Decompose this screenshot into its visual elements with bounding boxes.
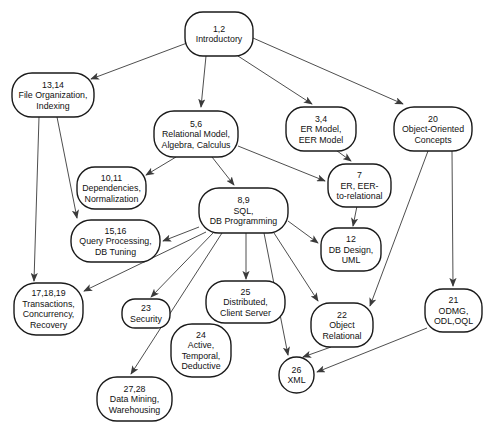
node-23: 23Security xyxy=(122,299,170,328)
edge-8-9-to-12 xyxy=(288,221,318,243)
figure-canvas: 1,2Introductory13,14File Organization,In… xyxy=(0,0,491,429)
node-17-18-19-label-line: 17,18,19 xyxy=(31,288,65,298)
node-13-14-label-line: File Organization, xyxy=(19,90,88,100)
node-12-label-line: UML xyxy=(342,255,361,265)
node-12-label-line: DB Design, xyxy=(329,245,374,255)
edge-1-2-to-3-4 xyxy=(238,56,312,104)
node-23-label-line: 23 xyxy=(141,303,151,313)
node-10-11-label-line: Normalization xyxy=(85,194,139,204)
node-26: 26XML xyxy=(279,357,314,393)
node-10-11-label-line: Dependencies, xyxy=(82,183,141,193)
node-8-9: 8,9SQL,DB Programming xyxy=(199,188,288,233)
node-17-18-19: 17,18,19Transactions,Concurrency,Recover… xyxy=(14,283,83,335)
edge-1-2-to-13-14 xyxy=(91,43,187,79)
node-25-label-line: Client Server xyxy=(220,308,271,318)
node-17-18-19-label-line: Recovery xyxy=(30,320,68,330)
node-12: 12DB Design,UML xyxy=(321,228,381,271)
node-22: 22ObjectRelational xyxy=(311,303,373,347)
node-1-2: 1,2Introductory xyxy=(185,12,253,56)
node-27-28-label-line: Data Mining, xyxy=(110,394,159,404)
node-25-label-line: Distributed, xyxy=(223,297,268,307)
node-23-label-line: Security xyxy=(130,314,162,324)
node-20-label-line: Concepts xyxy=(414,135,452,145)
dependency-diagram: 1,2Introductory13,14File Organization,In… xyxy=(0,0,491,429)
node-13-14-label-line: 13,14 xyxy=(42,80,64,90)
node-21-label-line: ODMG, xyxy=(439,306,469,316)
node-27-28: 27,28Data Mining,Warehousing xyxy=(97,377,172,421)
node-3-4: 3,4ER Model,EER Model xyxy=(286,107,356,151)
node-3-4-label-line: 3,4 xyxy=(315,114,327,124)
node-27-28-label-line: 27,28 xyxy=(123,384,145,394)
node-5-6-label-line: 5,6 xyxy=(190,119,202,129)
node-8-9-label-line: 8,9 xyxy=(237,195,249,205)
node-24-label-line: 24 xyxy=(196,330,206,340)
node-26-label-line: XML xyxy=(287,375,305,385)
node-1-2-label-line: 1,2 xyxy=(213,24,225,34)
node-24-label-line: Temporal, xyxy=(182,351,221,361)
node-20: 20Object-OrientedConcepts xyxy=(394,107,472,151)
edge-1-2-to-20 xyxy=(253,38,403,104)
node-22-label-line: 22 xyxy=(337,310,347,320)
node-24-label-line: Active, xyxy=(188,340,214,350)
node-21-label-line: 21 xyxy=(449,295,459,305)
node-17-18-19-label-line: Concurrency, xyxy=(23,309,75,319)
node-13-14-label-line: Indexing xyxy=(36,101,69,111)
node-10-11: 10,11Dependencies,Normalization xyxy=(77,167,146,209)
node-8-9-label-line: DB Programming xyxy=(210,216,278,226)
node-25-label-line: 25 xyxy=(241,287,251,297)
node-20-label-line: Object-Oriented xyxy=(402,124,464,134)
node-8-9-label-line: SQL, xyxy=(233,206,253,216)
node-7-label-line: 7 xyxy=(357,170,362,180)
edge-7-to-12 xyxy=(353,206,357,226)
edge-8-9-to-15-16 xyxy=(163,227,199,241)
node-20-label-line: 20 xyxy=(428,114,438,124)
node-3-4-label-line: ER Model, xyxy=(300,124,341,134)
node-10-11-label-line: 10,11 xyxy=(101,173,122,183)
node-15-16: 15,16Query Processing,DB Tuning xyxy=(71,220,160,262)
node-26-label-line: 26 xyxy=(292,365,302,375)
node-3-4-label-line: EER Model xyxy=(299,135,344,145)
node-21: 21ODMG,ODL,OQL xyxy=(425,289,482,332)
node-25: 25Distributed,Client Server xyxy=(206,281,285,323)
edge-13-14-to-15-16 xyxy=(57,117,77,218)
node-17-18-19-label-line: Transactions, xyxy=(22,299,74,309)
node-13-14: 13,14File Organization,Indexing xyxy=(12,73,94,117)
node-1-2-label-line: Introductory xyxy=(196,34,243,44)
node-12-label-line: 12 xyxy=(346,234,356,244)
edge-1-2-to-5-6 xyxy=(201,56,206,107)
node-21-label-line: ODL,OQL xyxy=(434,316,473,326)
node-7: 7ER, EER-to-relational xyxy=(328,164,391,207)
edge-13-14-to-17-18-19 xyxy=(34,117,39,281)
node-24-label-line: Deductive xyxy=(181,361,220,371)
node-27-28-label-line: Warehousing xyxy=(109,405,161,415)
edge-5-6-to-8-9 xyxy=(212,157,234,185)
node-15-16-label-line: 15,16 xyxy=(104,226,126,236)
node-5-6-label-line: Relational Model, xyxy=(162,129,230,139)
edge-22-to-26 xyxy=(303,347,331,357)
node-22-label-line: Object xyxy=(329,320,355,330)
node-22-label-line: Relational xyxy=(322,331,361,341)
node-15-16-label-line: DB Tuning xyxy=(95,247,136,257)
node-7-label-line: ER, EER- xyxy=(340,181,378,191)
node-7-label-line: to-relational xyxy=(337,191,383,201)
node-5-6-label-line: Algebra, Calculus xyxy=(162,140,232,150)
edge-20-to-21 xyxy=(452,151,453,286)
node-5-6: 5,6Relational Model,Algebra, Calculus xyxy=(154,111,238,157)
node-15-16-label-line: Query Processing, xyxy=(79,236,151,246)
node-24: 24Active,Temporal,Deductive xyxy=(171,324,231,377)
edge-5-6-to-10-11 xyxy=(146,157,176,175)
